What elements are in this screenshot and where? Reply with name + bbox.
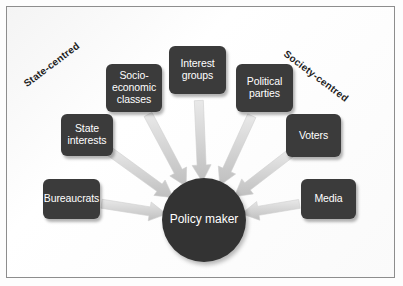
node-media: Media	[301, 179, 356, 219]
node-interest-groups-line2: groups	[180, 70, 214, 82]
arrow-interest-groups	[192, 100, 211, 182]
node-voters: Voters	[286, 114, 341, 157]
hub-label-line2: maker	[205, 212, 238, 226]
node-voters-line1: Voters	[299, 130, 328, 142]
node-socio-economic-classes: Socio-economicclasses	[106, 64, 162, 112]
node-bureaucrats: Bureaucrats	[43, 179, 100, 219]
hub-policy-maker: Policy maker	[162, 178, 246, 262]
diagram-figure: State-centred Society-centred Bureaucrat…	[0, 0, 403, 286]
arrow-media	[242, 200, 301, 221]
arrow-political-parties	[218, 114, 256, 186]
node-state-interests: Stateinterests	[61, 114, 113, 156]
node-political-parties: Politicalparties	[236, 64, 293, 112]
arrow-state-interests	[107, 148, 173, 198]
node-political-parties-line2: parties	[247, 88, 282, 100]
hub-label-line1: Policy	[170, 212, 202, 226]
node-media-line1: Media	[314, 193, 342, 205]
node-state-interests-line2: interests	[68, 135, 107, 147]
arrow-bureaucrats	[101, 199, 167, 221]
diagram-frame: State-centred Society-centred Bureaucrat…	[6, 6, 395, 278]
node-bureaucrats-line1: Bureaucrats	[44, 193, 100, 205]
node-socio-economic-classes-line3: classes	[112, 94, 156, 106]
arrow-voters	[234, 150, 293, 197]
node-interest-groups: Interestgroups	[169, 46, 226, 94]
